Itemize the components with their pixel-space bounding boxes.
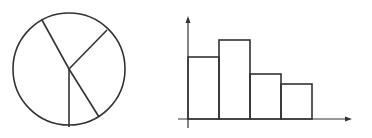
figure-canvas — [0, 0, 372, 138]
y-axis-arrow-icon — [186, 16, 191, 23]
x-axis-arrow-icon — [345, 117, 352, 122]
pie-slice-divider — [69, 69, 99, 117]
pie-slice-divider — [42, 20, 69, 69]
pie-slice-divider — [69, 30, 107, 69]
histogram-chart — [178, 16, 352, 128]
histogram-bar — [219, 40, 250, 119]
histogram-bar — [188, 57, 219, 119]
pie-chart — [13, 13, 125, 127]
histogram-bar — [281, 84, 312, 119]
histogram-bar — [250, 74, 281, 119]
